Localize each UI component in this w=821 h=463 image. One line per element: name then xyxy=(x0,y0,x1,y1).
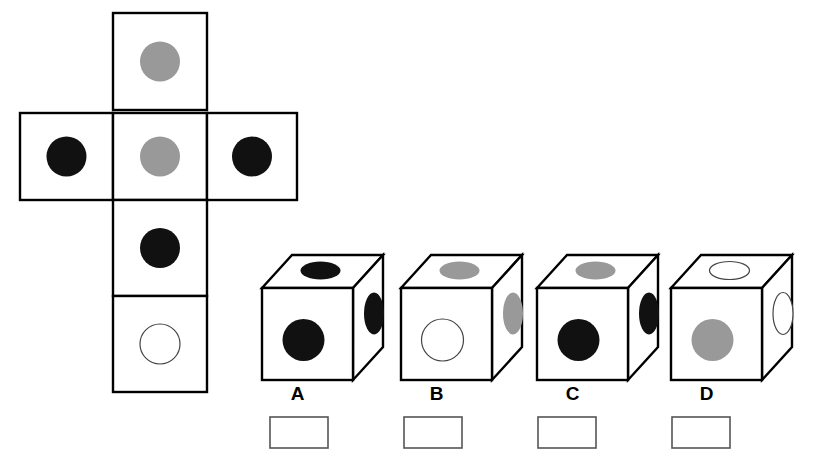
net-pip-gray xyxy=(140,42,180,82)
net-cell-bottom xyxy=(113,296,207,392)
cube-A-top-pip-black xyxy=(301,262,341,280)
answer-box-border-B[interactable] xyxy=(404,417,462,448)
puzzle-canvas: ABCD xyxy=(0,0,821,463)
cube-option-label-A: A xyxy=(291,383,305,404)
cube-B-front-pip-white xyxy=(422,319,464,361)
net-cell-middle-left xyxy=(20,113,113,200)
answer-box-D[interactable] xyxy=(672,417,730,448)
cube-option-label-D: D xyxy=(700,383,714,404)
cube-option-A[interactable]: A xyxy=(262,255,384,404)
answer-boxes xyxy=(270,417,730,448)
cube-B-right-pip-gray xyxy=(503,293,523,335)
cube-C-right-pip-black xyxy=(639,293,659,335)
cube-option-C[interactable]: C xyxy=(537,255,659,404)
cube-option-label-C: C xyxy=(566,383,580,404)
net-cell-top xyxy=(113,13,207,110)
net-pip-gray xyxy=(140,137,180,177)
cube-option-label-B: B xyxy=(430,383,444,404)
answer-box-B[interactable] xyxy=(404,417,462,448)
cube-D-top-pip-white xyxy=(710,262,750,280)
cube-option-D[interactable]: D xyxy=(671,255,793,404)
cube-D-right-pip-white xyxy=(773,293,793,335)
puzzle-figure: ABCD xyxy=(0,0,821,463)
answer-box-A[interactable] xyxy=(270,417,328,448)
answer-box-C[interactable] xyxy=(538,417,596,448)
answer-box-border-C[interactable] xyxy=(538,417,596,448)
net-pip-black xyxy=(140,228,180,268)
net-cell-lower xyxy=(113,200,207,296)
cube-B-top-pip-gray xyxy=(440,262,480,280)
net-pip-black xyxy=(232,137,272,177)
answer-box-border-D[interactable] xyxy=(672,417,730,448)
cube-A-right-pip-black xyxy=(364,293,384,335)
answer-box-border-A[interactable] xyxy=(270,417,328,448)
cube-options: ABCD xyxy=(262,255,793,404)
cube-C-front-pip-black xyxy=(558,319,600,361)
cube-D-front-pip-gray xyxy=(692,319,734,361)
cube-C-top-pip-gray xyxy=(576,262,616,280)
net-pip-black xyxy=(47,137,87,177)
unfolded-cube-net xyxy=(20,13,297,392)
net-cell-middle-center xyxy=(113,113,207,200)
cube-A-front-pip-black xyxy=(283,319,325,361)
cube-option-B[interactable]: B xyxy=(401,255,523,404)
net-cell-middle-right xyxy=(207,113,297,200)
net-pip-white xyxy=(140,324,180,364)
